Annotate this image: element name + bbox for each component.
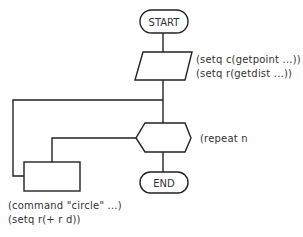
input-annotation-2: (setq r(getdist ...)) (196, 68, 292, 79)
input-parallelogram (135, 52, 192, 80)
start-label: START (149, 17, 181, 28)
flowchart: START (setq c(getpoint ...)) (setq r(get… (0, 0, 303, 237)
process-annotation-2: (setq r(+ r d)) (8, 214, 81, 225)
input-annotation-1: (setq c(getpoint ...)) (196, 54, 301, 65)
process-rectangle (24, 162, 80, 191)
end-terminator: END (140, 172, 188, 193)
loop-annotation: (repeat n (200, 133, 248, 144)
start-terminator: START (140, 10, 188, 33)
edge-loop-process (52, 138, 136, 162)
loop-hexagon (136, 123, 191, 152)
end-label: END (153, 178, 175, 189)
process-annotation-1: (command "circle" ...) (8, 200, 122, 211)
